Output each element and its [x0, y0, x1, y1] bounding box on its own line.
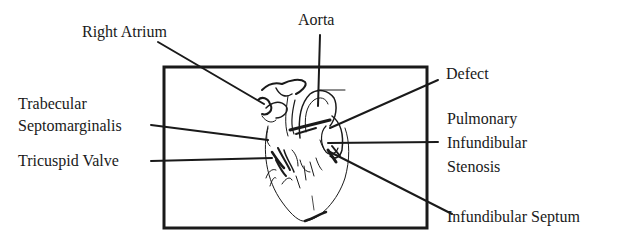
label-line: Septomarginalis [18, 115, 122, 137]
leader-defect [330, 80, 438, 128]
label-infundibular-septum: Infundibular Septum [447, 206, 580, 228]
label-text: Aorta [298, 11, 334, 28]
leader-right-atrium [158, 42, 264, 104]
label-line: Infundibular [447, 131, 527, 155]
leader-trabecular-septomarginalis [151, 125, 268, 140]
leader-infundibular-septum [330, 152, 452, 214]
leader-aorta [318, 35, 320, 106]
diagram-frame [164, 67, 427, 228]
leader-tricuspid-valve [151, 158, 272, 161]
heart-illustration [258, 80, 349, 221]
label-trabecular-septomarginalis: Trabecular Septomarginalis [18, 93, 122, 137]
label-defect: Defect [446, 63, 489, 85]
label-text: Right Atrium [82, 23, 167, 40]
label-right-atrium: Right Atrium [82, 21, 167, 43]
label-text: Infundibular Septum [447, 208, 580, 225]
label-aorta: Aorta [298, 9, 334, 31]
label-text: Defect [446, 65, 489, 82]
label-line: Trabecular [18, 93, 122, 115]
label-line: Pulmonary [447, 107, 527, 131]
leader-lines [151, 35, 452, 214]
label-line: Stenosis [447, 155, 527, 179]
label-text: Tricuspid Valve [18, 152, 119, 169]
label-pulmonary-infundibular-stenosis: Pulmonary Infundibular Stenosis [447, 107, 527, 179]
label-tricuspid-valve: Tricuspid Valve [18, 150, 119, 172]
leader-pulmonary-infundibular-stenosis [328, 142, 438, 143]
